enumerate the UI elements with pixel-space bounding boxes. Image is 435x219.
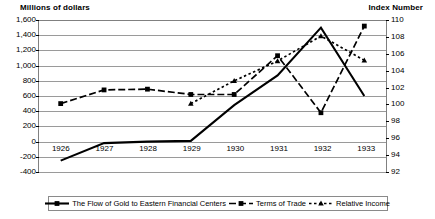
- left-axis-tick-label: 1,200: [16, 46, 36, 54]
- series-marker: [275, 58, 281, 63]
- series-marker: [145, 87, 150, 92]
- right-axis-tickmark: [386, 71, 389, 72]
- series-marker: [188, 92, 193, 97]
- series-layer: [39, 20, 386, 172]
- left-axis-tick-label: 600: [23, 92, 36, 100]
- left-axis-title: Millions of dollars: [20, 3, 90, 12]
- legend-label: Relative Income: [336, 199, 390, 208]
- legend-label: Terms of Trade: [256, 199, 306, 208]
- legend-label: The Flow of Gold to Eastern Financial Ce…: [72, 199, 226, 208]
- legend-entry[interactable]: The Flow of Gold to Eastern Financial Ce…: [44, 199, 228, 208]
- legend-swatch-dotted-icon: [308, 199, 334, 208]
- right-axis-title: Index Number: [368, 3, 423, 12]
- right-axis-tickmark: [386, 104, 389, 105]
- series-marker: [232, 92, 237, 97]
- left-axis-tick-label: 400: [23, 107, 36, 115]
- left-axis-tick-label: -200: [20, 153, 36, 161]
- left-axis-tick-label: 800: [23, 77, 36, 85]
- chart-legend: The Flow of Gold to Eastern Financial Ce…: [48, 196, 388, 211]
- legend-swatch-dashed-icon: [228, 199, 254, 208]
- right-axis-tick-label: 108: [391, 33, 404, 41]
- right-axis-tickmark: [386, 20, 389, 21]
- series-marker: [275, 53, 280, 58]
- right-axis-tick-label: 94: [391, 151, 400, 159]
- series-marker: [102, 88, 107, 93]
- series-marker: [318, 33, 324, 38]
- series-line: [61, 26, 365, 113]
- legend-swatch-solid-icon: [44, 199, 70, 208]
- right-axis-tickmark: [386, 138, 389, 139]
- right-axis-tickmark: [386, 88, 389, 89]
- left-axis-tick-label: 1,600: [16, 16, 36, 24]
- right-axis-tick-label: 92: [391, 168, 400, 176]
- legend-entry[interactable]: Relative Income: [308, 199, 392, 208]
- chart-container: Millions of dollars Index Number 1,6001,…: [0, 0, 435, 219]
- series-marker: [362, 24, 367, 29]
- right-axis-tickmark: [386, 121, 389, 122]
- right-axis-tickmark: [386, 54, 389, 55]
- left-axis-tickmark: [36, 172, 39, 173]
- right-axis-tick-label: 106: [391, 50, 404, 58]
- left-axis-tick-label: -400: [20, 168, 36, 176]
- right-axis-tick-label: 98: [391, 117, 400, 125]
- series-marker: [58, 101, 63, 106]
- legend-entry[interactable]: Terms of Trade: [228, 199, 308, 208]
- gridline: [39, 172, 386, 173]
- left-axis-tick-label: 1,400: [16, 31, 36, 39]
- right-axis-tick-label: 110: [391, 16, 404, 24]
- right-axis-tickmark: [386, 155, 389, 156]
- series-line: [191, 36, 365, 104]
- right-axis-tickmark: [386, 37, 389, 38]
- series-marker: [319, 110, 324, 115]
- right-axis-tick-label: 96: [391, 134, 400, 142]
- left-axis-tick-label: 200: [23, 122, 36, 130]
- right-axis-tickmark: [386, 172, 389, 173]
- plot-area: 1,6001,4001,2001,0008006004002000-200-40…: [38, 20, 387, 172]
- right-axis-tick-label: 100: [391, 100, 404, 108]
- right-axis-tick-label: 104: [391, 67, 404, 75]
- left-axis-tick-label: 1,000: [16, 62, 36, 70]
- right-axis-tick-label: 102: [391, 84, 404, 92]
